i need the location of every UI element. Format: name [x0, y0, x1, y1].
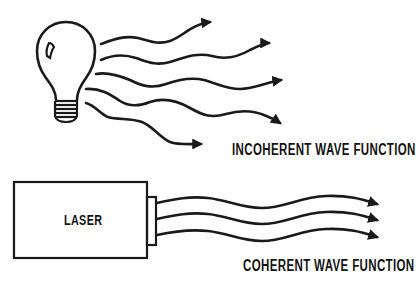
incoherent-waves [86, 22, 281, 144]
coherent-wave-2 [157, 212, 377, 224]
incoherent-wave-5 [86, 103, 201, 144]
coherent-wave-1 [157, 196, 377, 208]
bulb-base [55, 101, 77, 122]
bulb-highlight [47, 43, 54, 58]
incoherent-wave-label: INCOHERENT WAVE FUNCTION [232, 141, 416, 159]
coherent-waves [157, 196, 377, 241]
coherent-wave-label: COHERENT WAVE FUNCTION [243, 257, 415, 275]
incoherent-wave-2 [101, 43, 269, 64]
laser-label: LASER [64, 211, 102, 228]
coherent-wave-3 [157, 229, 377, 241]
incoherent-wave-1 [101, 22, 210, 44]
laser-nozzle [147, 197, 156, 245]
light-bulb-icon [37, 22, 95, 122]
incoherent-wave-3 [96, 73, 281, 89]
